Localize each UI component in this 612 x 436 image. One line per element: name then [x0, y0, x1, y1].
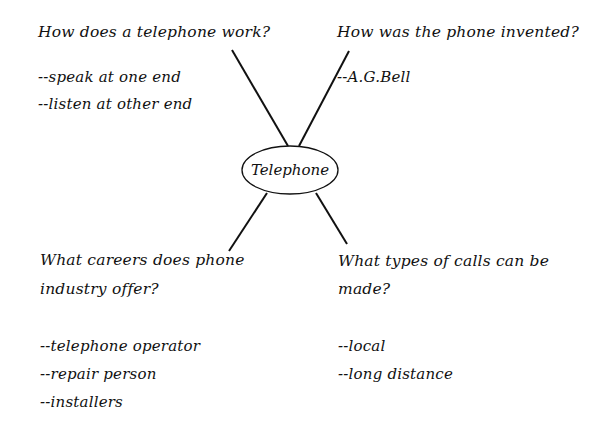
branch-answer: --installers: [40, 392, 123, 412]
branch-answer: --listen at other end: [38, 94, 192, 114]
branch-question-call-types-line1: What types of calls can be: [338, 251, 549, 271]
branch-question-careers-line1: What careers does phone: [40, 250, 245, 270]
branch-question-call-types-line2: made?: [338, 279, 390, 299]
branch-question-invention: How was the phone invented?: [337, 22, 579, 42]
branch-answer: --speak at one end: [38, 67, 181, 87]
connector-upper-right: [299, 51, 349, 146]
branch-answer: --A.G.Bell: [337, 67, 410, 87]
connector-lower-right: [316, 193, 347, 244]
branch-answer: --local: [338, 336, 386, 356]
branch-answer: --telephone operator: [40, 336, 200, 356]
branch-question-careers-line2: industry offer?: [40, 279, 159, 299]
branch-answer: --repair person: [40, 364, 157, 384]
branch-question-how-it-works: How does a telephone work?: [38, 22, 270, 42]
branch-answer: --long distance: [338, 364, 453, 384]
connector-upper-left: [232, 50, 288, 146]
center-node-label: Telephone: [242, 158, 338, 182]
connector-lower-left: [229, 193, 267, 251]
